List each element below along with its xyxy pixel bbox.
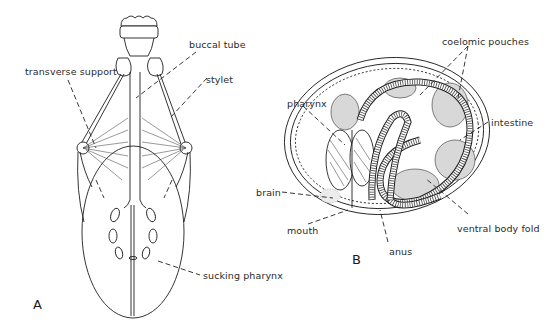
leader-mouth — [308, 210, 348, 224]
label-intestine: intestine — [491, 118, 533, 128]
label-stylet: stylet — [206, 75, 233, 85]
leader-sucking-pharynx — [158, 261, 200, 275]
panel-label-a: A — [33, 298, 42, 311]
label-anus: anus — [389, 247, 412, 257]
label-coelomic-pouches: coelomic pouches — [442, 37, 529, 47]
label-ventral-body-fold: ventral body fold — [457, 224, 540, 234]
label-buccal-tube: buccal tube — [189, 40, 246, 50]
leader-stylet — [170, 78, 207, 118]
label-transverse-support: transverse support — [25, 67, 117, 77]
label-pharynx: pharynx — [287, 99, 327, 109]
panel-label-b: B — [352, 253, 361, 266]
leader-transverse-support — [68, 80, 96, 148]
label-brain: brain — [256, 188, 281, 198]
label-mouth: mouth — [287, 226, 318, 236]
label-sucking-pharynx: sucking pharynx — [203, 271, 283, 281]
figure: buccal tube transverse support stylet su… — [0, 0, 555, 321]
panel-a-drawing — [77, 16, 192, 318]
